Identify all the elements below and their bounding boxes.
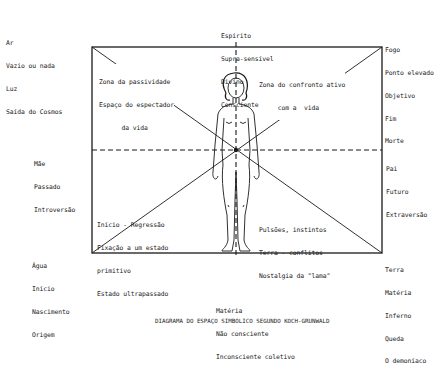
label-supra-sensivel: Supra-sensível: [221, 56, 273, 64]
zone-ultrapassado-line: Estado ultrapassado: [97, 291, 168, 299]
zone-lower-left: Início - Regressão Fixação a um estado p…: [97, 207, 168, 306]
label-inconsciente-coletivo: Inconsciente coletivo: [216, 354, 295, 362]
label-morte: Morte: [385, 138, 434, 146]
corner-top-left-label: Ar Vazio ou nada Luz Saída do Cosmos: [6, 25, 62, 124]
label-materia: Matéria: [385, 290, 426, 298]
zone-pulsoes-line: Pulsões, instintos: [259, 227, 330, 235]
corner-bottom-left-label: Água Início Nascimento Origem: [32, 248, 69, 347]
diagram-caption: DIAGRAMA DO ESPAÇO SIMBÓLICO SEGUNDO KOC…: [155, 318, 330, 324]
zone-regressao-line: Início - Regressão: [97, 222, 168, 230]
zone-confronto-line: Zona do confronto ativo: [259, 82, 345, 90]
label-demoniaco: O demoníaco: [385, 358, 426, 366]
corner-top-right-label: Fogo Ponto elevado Objetivo Fim Morte: [385, 32, 434, 154]
label-saida-cosmos: Saída do Cosmos: [6, 109, 62, 117]
label-passado: Passado: [34, 184, 75, 192]
zone-upper-right: Zona do confronto ativo com a vida: [259, 67, 345, 120]
zone-primitivo-line: primitivo: [97, 268, 168, 276]
zone-da-vida-line: da vida: [99, 125, 174, 133]
label-fogo: Fogo: [385, 47, 434, 55]
zone-passividade-line: Zona da passividade: [99, 79, 174, 87]
label-pai: Pai: [386, 166, 427, 174]
zone-fixacao-line: Fixação a um estado: [97, 245, 168, 253]
zone-espectador-line: Espaço do espectador: [99, 102, 174, 110]
label-futuro: Futuro: [386, 189, 427, 197]
zone-lower-right: Pulsões, instintos Terra - conflitos Nos…: [259, 212, 330, 288]
axis-right-label: Pai Futuro Extraversão: [386, 151, 427, 227]
label-introversao: Introversão: [34, 207, 75, 215]
label-origem: Origem: [32, 332, 69, 340]
label-mae: Mãe: [34, 161, 75, 169]
label-espirito: Espírito: [221, 33, 273, 41]
label-materia-bottom: Matéria: [216, 308, 295, 316]
label-extraversao: Extraversão: [386, 212, 427, 220]
axis-bottom-label: Matéria Não consciente Inconsciente cole…: [216, 293, 295, 367]
corner-bottom-right-label: Terra Matéria Inferno Queda O demoníaco: [385, 252, 426, 367]
label-ponto-elevado: Ponto elevado: [385, 70, 434, 78]
label-vazio: Vazio ou nada: [6, 63, 62, 71]
label-inferno: Inferno: [385, 313, 426, 321]
zone-com-a-vida-line: com a vida: [259, 105, 345, 113]
label-queda: Queda: [385, 336, 426, 344]
label-fim: Fim: [385, 116, 434, 124]
label-inicio: Início: [32, 286, 69, 294]
zone-nostalgia-line: Nostalgia da "lama": [259, 273, 330, 281]
zone-conflitos-line: Terra - conflitos: [259, 250, 330, 258]
label-nao-consciente: Não consciente: [216, 331, 295, 339]
label-luz: Luz: [6, 86, 62, 94]
label-agua: Água: [32, 263, 69, 271]
axis-left-label: Mãe Passado Introversão: [34, 146, 75, 222]
label-nascimento: Nascimento: [32, 309, 69, 317]
label-objetivo: Objetivo: [385, 93, 434, 101]
label-ar: Ar: [6, 40, 62, 48]
label-terra: Terra: [385, 267, 426, 275]
zone-upper-left: Zona da passividade Espaço do espectador…: [99, 64, 174, 140]
